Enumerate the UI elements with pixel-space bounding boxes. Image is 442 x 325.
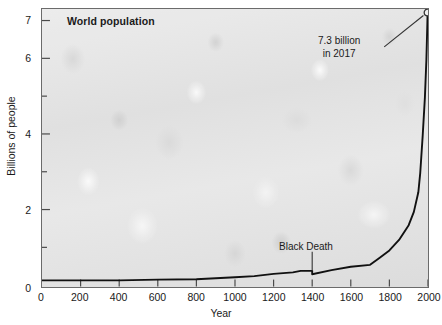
population-curve-svg (42, 9, 428, 288)
y-tick-label-0: 0 (25, 282, 31, 294)
y-tick-label-7: 7 (25, 14, 31, 26)
y-tick-label-6: 6 (25, 52, 31, 64)
x-tick-label-800: 800 (187, 291, 205, 303)
x-tick-label-0: 0 (38, 291, 44, 303)
y-tick-label-2: 2 (25, 204, 31, 216)
x-tick-label-1400: 1400 (301, 291, 324, 303)
x-tick-label-1800: 1800 (379, 291, 402, 303)
x-axis-label: Year (0, 307, 442, 319)
x-tick-label-200: 200 (71, 291, 89, 303)
x-tick-label-1000: 1000 (223, 291, 246, 303)
chart-title: World population (67, 15, 155, 27)
population-line (42, 12, 428, 280)
plot-area (41, 8, 429, 288)
x-tick-label-1200: 1200 (262, 291, 285, 303)
x-tick-label-2000: 2000 (417, 291, 440, 303)
x-tick-label-1600: 1600 (340, 291, 363, 303)
x-tick-label-400: 400 (110, 291, 128, 303)
peak-callout-line2: in 2017 (318, 47, 360, 60)
peak-marker (424, 9, 428, 16)
peak-callout-line1: 7.3 billion (318, 34, 360, 47)
peak-callout: 7.3 billion in 2017 (318, 34, 360, 60)
chart-figure: World population 7 6 4 2 0 0 200 400 600… (0, 0, 442, 325)
y-axis-label: Billions of people (5, 71, 17, 201)
x-tick-label-600: 600 (149, 291, 167, 303)
y-tick-marks (42, 21, 50, 248)
peak-leader-line (384, 15, 423, 46)
black-death-annotation: Black Death (279, 240, 333, 253)
y-tick-label-4: 4 (25, 128, 31, 140)
